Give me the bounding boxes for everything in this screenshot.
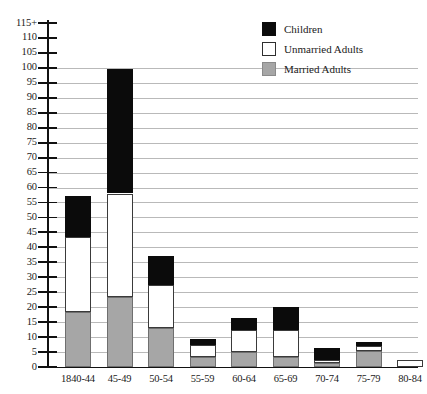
bar-segment-married-adults [314, 363, 340, 367]
y-axis-tick-label: 55 [3, 197, 37, 208]
y-axis-tick-label: 100 [3, 62, 37, 73]
y-axis-tick-label: 15 [3, 317, 37, 328]
y-axis-tick-label: 60 [3, 182, 37, 193]
y-axis-tick-label: 65 [3, 167, 37, 178]
bar-segment-married-adults [190, 357, 216, 367]
legend-item-label: Married Adults [284, 62, 351, 76]
y-axis-tick-label: 30 [3, 272, 37, 283]
y-axis-tick-label: 5 [3, 347, 37, 358]
bar-segment-children [273, 307, 299, 329]
y-axis-tick-label: 0 [3, 362, 37, 373]
bar-segment-married-adults [148, 328, 174, 367]
y-axis-tick-label: 90 [3, 92, 37, 103]
legend-item-label: Children [284, 22, 323, 36]
bar-segment-children [65, 196, 91, 236]
y-axis-tick-label: 20 [3, 302, 37, 313]
legend-swatch-married-icon [262, 62, 276, 76]
legend-item-label: Unmarried Adults [284, 42, 363, 56]
bar-segment-married-adults [65, 312, 91, 367]
legend-item: Unmarried Adults [262, 40, 412, 58]
y-axis-tick-label: 75 [3, 137, 37, 148]
bar-segment-unmarried-adults [356, 346, 382, 350]
bar-segment-married-adults [107, 297, 133, 367]
bar-segment-unmarried-adults [65, 237, 91, 312]
y-axis-tick-label: 115+ [3, 18, 37, 29]
y-axis-tick-label: 40 [3, 242, 37, 253]
bar-60-64 [231, 20, 257, 367]
bar-segment-married-adults [356, 351, 382, 367]
y-axis-tick-label: 45 [3, 227, 37, 238]
y-axis-tick-label: 95 [3, 77, 37, 88]
legend-swatch-unmarried-icon [262, 42, 276, 56]
y-axis-tick-label: 50 [3, 212, 37, 223]
legend-item: Married Adults [262, 60, 412, 78]
bar-segment-children [314, 348, 340, 360]
y-axis-tick-label: 25 [3, 287, 37, 298]
bar-segment-unmarried-adults [107, 194, 133, 297]
bar-segment-children [356, 342, 382, 346]
bar-segment-unmarried-adults [231, 330, 257, 352]
bar-45-49 [107, 20, 133, 367]
y-axis-tick-label: 35 [3, 257, 37, 268]
bar-segment-children [190, 339, 216, 345]
y-axis-labels: 0510152025303540455055606570758085909510… [0, 0, 37, 394]
y-axis-tick-label: 85 [3, 107, 37, 118]
y-axis-tick-label: 10 [3, 332, 37, 343]
bar-segment-children [107, 69, 133, 193]
bar-segment-married-adults [273, 357, 299, 367]
x-axis-tick-label: 80-84 [384, 373, 427, 384]
bar-segment-unmarried-adults [397, 360, 423, 367]
bar-segment-children [148, 256, 174, 284]
y-axis-tick-label: 70 [3, 152, 37, 163]
y-axis-tick-label: 110 [3, 32, 37, 43]
bar-segment-unmarried-adults [148, 285, 174, 328]
bar-1840-44 [65, 20, 91, 367]
legend-item: Children [262, 20, 412, 38]
bar-segment-unmarried-adults [314, 360, 340, 363]
bar-segment-unmarried-adults [190, 345, 216, 357]
y-axis-tick-label: 105 [3, 47, 37, 58]
bar-segment-unmarried-adults [273, 330, 299, 357]
bar-segment-children [231, 318, 257, 330]
bar-segment-married-adults [231, 352, 257, 367]
legend-swatch-children-icon [262, 22, 276, 36]
bar-55-59 [190, 20, 216, 367]
bar-50-54 [148, 20, 174, 367]
chart-legend: ChildrenUnmarried AdultsMarried Adults [262, 20, 412, 80]
y-axis-tick-label: 80 [3, 122, 37, 133]
